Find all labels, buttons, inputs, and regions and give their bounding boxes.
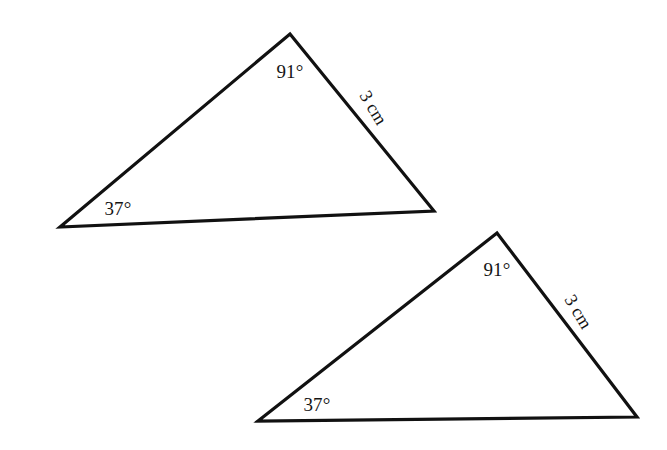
triangle-upper-left-base-angle-label: 37°: [104, 198, 131, 220]
triangle-lower-right-apex-angle-label: 91°: [483, 259, 510, 281]
triangles-figure: [0, 0, 667, 450]
triangle-lower-right-base-angle-label: 37°: [303, 394, 330, 416]
diagram-canvas: 91° 37° 3 cm 91° 37° 3 cm: [0, 0, 667, 450]
triangle-upper-left-apex-angle-label: 91°: [276, 61, 303, 83]
